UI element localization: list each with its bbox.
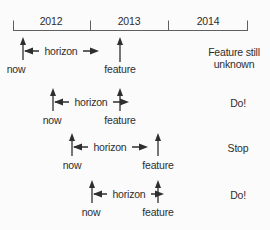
horizon-label: horizon [74,96,107,108]
status-label: Do! [230,97,246,109]
year-label-2014: 2014 [197,15,220,27]
horizon-label: horizon [93,141,126,153]
horizon-row-4: horizon now feature Do! [82,180,246,218]
now-up-arrow-icon [69,133,75,156]
horizon-row-2: horizon now feature Do! [43,88,246,126]
year-label-2013: 2013 [118,15,141,27]
year-label-2012: 2012 [40,15,63,27]
feature-label: feature [104,63,136,75]
horizon-row-3: horizon now feature Stop [63,133,249,171]
now-up-arrow-icon [20,37,26,60]
horizon-row-1: horizon now feature Feature still unknow… [7,37,260,75]
feature-label: feature [104,114,136,126]
status-label: Do! [230,189,246,201]
now-label: now [7,63,26,75]
horizon-label: horizon [112,188,145,200]
status-label: Stop [228,142,249,154]
feature-label: feature [142,159,174,171]
feature-up-arrow-icon [117,37,123,62]
horizon-label: horizon [44,45,77,57]
status-label: Feature still [208,46,260,58]
now-up-arrow-icon [50,88,56,111]
now-label: now [82,206,101,218]
now-up-arrow-icon [89,180,95,203]
status-label-line2: unknown [214,58,255,70]
now-label: now [63,159,82,171]
timeline-axis: 2012 2013 2014 [13,15,248,31]
feature-label: feature [142,206,174,218]
now-label: now [43,114,62,126]
feature-up-arrow-icon [155,133,161,156]
horizon-timeline-diagram: 2012 2013 2014 horizon now feature Featu… [0,0,270,230]
